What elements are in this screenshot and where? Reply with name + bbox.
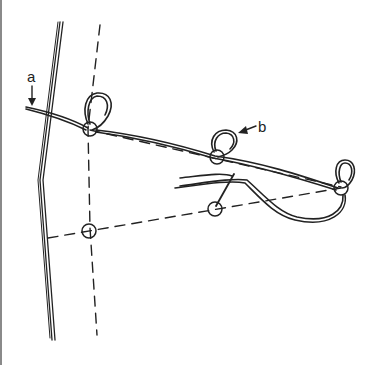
label-a: a (27, 68, 36, 85)
label-b: b (258, 118, 266, 135)
knot-diagram: a b (0, 0, 382, 365)
arrows (32, 86, 256, 131)
stake (38, 22, 63, 340)
dashed-guides (48, 25, 341, 335)
rope (26, 107, 345, 222)
arrow-b-icon (238, 126, 248, 134)
diagram-canvas: a b (0, 0, 382, 365)
arrow-a-icon (28, 98, 36, 106)
